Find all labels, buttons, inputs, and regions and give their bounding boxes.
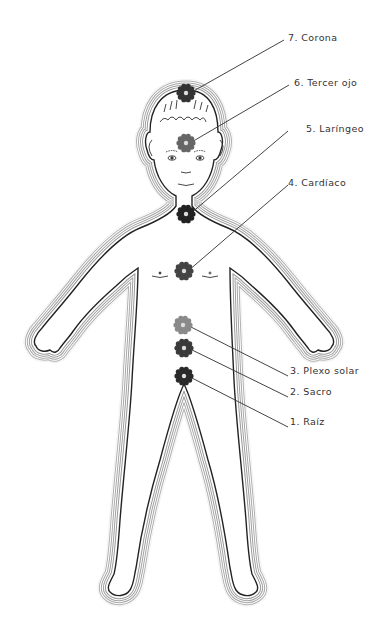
root-chakra-icon xyxy=(174,367,193,386)
child-body-illustration xyxy=(0,0,380,633)
chakra-label: 5. Laríngeo xyxy=(306,123,364,134)
chakra-label: 2. Sacro xyxy=(290,386,332,397)
third-eye-chakra-icon xyxy=(176,134,195,153)
chakra-label: 1. Raíz xyxy=(290,416,325,427)
leader-line xyxy=(190,40,284,93)
chakra-label: 4. Cardíaco xyxy=(288,177,346,188)
solar-plexus-chakra-icon xyxy=(173,316,192,335)
chakra-diagram: 7. Corona6. Tercer ojo5. Laríngeo4. Card… xyxy=(0,0,380,633)
chakra-label: 7. Corona xyxy=(288,32,337,43)
crown-chakra-icon xyxy=(176,84,195,103)
throat-chakra-icon xyxy=(176,205,195,224)
heart-chakra-icon xyxy=(174,262,193,281)
chakra-label: 3. Plexo solar xyxy=(290,365,359,376)
chakra-label: 6. Tercer ojo xyxy=(294,77,357,88)
sacral-chakra-icon xyxy=(174,339,193,358)
